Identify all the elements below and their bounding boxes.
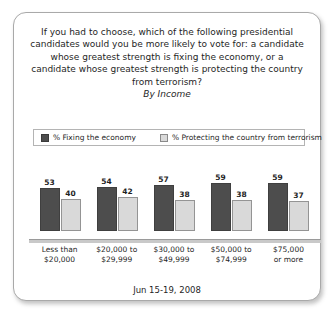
bar-column: 37	[289, 169, 309, 231]
x-axis-label: Less than$20,000	[31, 245, 88, 265]
legend-label-protecting-from-terrorism: % Protecting the country from terrorism	[172, 133, 322, 142]
bar	[61, 199, 81, 231]
bar	[154, 185, 174, 231]
legend-swatch-light-icon	[160, 134, 168, 142]
bar-group: 5938	[208, 169, 254, 231]
bar-value-label: 57	[158, 175, 168, 184]
bar	[118, 197, 138, 231]
x-axis-labels: Less than$20,000$20,000 to$29,999$30,000…	[29, 245, 319, 265]
bar-value-label: 37	[293, 191, 303, 200]
legend-label-fixing-the-economy: % Fixing the economy	[53, 133, 136, 142]
bar-column: 59	[268, 169, 288, 231]
bar-value-label: 59	[272, 173, 282, 182]
bar	[175, 200, 195, 231]
chart-panel: If you had to choose, which of the follo…	[13, 12, 321, 301]
bar-value-label: 38	[179, 190, 189, 199]
bar-column: 40	[61, 169, 81, 231]
bar-column: 59	[211, 169, 231, 231]
bar-column: 53	[40, 169, 60, 231]
survey-date: Jun 15-19, 2008	[14, 285, 320, 295]
bar	[40, 188, 60, 231]
bar	[268, 183, 288, 231]
bar-column: 38	[232, 169, 252, 231]
bar-value-label: 54	[101, 177, 111, 186]
bar-value-label: 53	[44, 178, 54, 187]
bar-column: 42	[118, 169, 138, 231]
chart-plot-area: 53405442573859385937	[29, 169, 319, 231]
x-axis-label: $30,000 to$49,999	[145, 245, 202, 265]
legend-swatch-dark-icon	[41, 134, 49, 142]
bar-groups: 53405442573859385937	[29, 169, 319, 231]
bar-value-label: 40	[65, 189, 75, 198]
legend-item-protecting-from-terrorism: % Protecting the country from terrorism	[160, 133, 322, 142]
bar-group: 5738	[151, 169, 197, 231]
bar-column: 38	[175, 169, 195, 231]
bar-column: 54	[97, 169, 117, 231]
bar-group: 5442	[94, 169, 140, 231]
chart-legend: % Fixing the economy % Protecting the co…	[33, 129, 305, 146]
page-title: If you had to choose, which of the follo…	[14, 13, 320, 88]
bar-group: 5937	[265, 169, 311, 231]
legend-item-fixing-the-economy: % Fixing the economy	[41, 133, 136, 142]
x-axis-label: $75,000or more	[260, 245, 317, 265]
x-axis-line	[29, 239, 321, 243]
chart-subtitle: By Income	[14, 88, 320, 99]
bar	[289, 201, 309, 231]
bar	[211, 183, 231, 231]
bar-group: 5340	[37, 169, 83, 231]
bar	[97, 187, 117, 231]
bar-value-label: 42	[122, 187, 132, 196]
x-axis-label: $20,000 to$29,999	[88, 245, 145, 265]
bar-value-label: 59	[215, 173, 225, 182]
bar-column: 57	[154, 169, 174, 231]
bar-value-label: 38	[236, 190, 246, 199]
x-axis-label: $50,000 to$74,999	[203, 245, 260, 265]
bar	[232, 200, 252, 231]
